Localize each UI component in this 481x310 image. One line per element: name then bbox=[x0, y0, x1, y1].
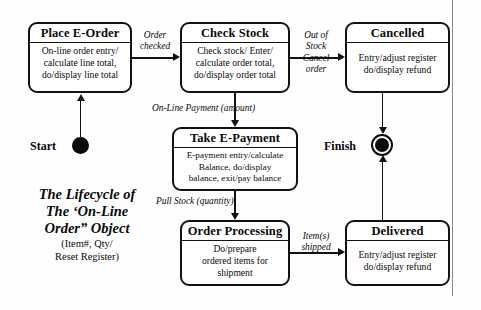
transition-label-line: Cancel bbox=[292, 53, 340, 64]
state-body-line: calculate line total, bbox=[33, 57, 127, 69]
state-body-delivered: Entry/adjust register do/display refund bbox=[347, 241, 448, 274]
state-title-cancelled: Cancelled bbox=[347, 24, 448, 42]
state-body-line: Check stock/ Enter/ bbox=[185, 45, 285, 57]
caption-subtitle: (Item#, Qty/ Reset Register) bbox=[8, 238, 166, 263]
transition-line-start bbox=[80, 100, 82, 140]
state-body-line: On-line order entry/ bbox=[33, 45, 127, 57]
state-title-delivered: Delivered bbox=[347, 222, 448, 240]
transition-label-line: Order bbox=[133, 30, 177, 41]
caption-title: The Lifecycle of The ‘On-Line Order” Obj… bbox=[8, 186, 166, 237]
caption-subtitle-line: (Item#, Qty/ bbox=[8, 238, 166, 250]
finish-marker-label: Finish bbox=[324, 139, 356, 154]
transition-label-line: order bbox=[292, 64, 340, 75]
state-body-line: E-payment entry/calculate bbox=[177, 150, 293, 161]
state-body-order-processing: Do/prepare ordered items for shipment bbox=[182, 241, 288, 280]
page-frame-rule bbox=[452, 0, 453, 296]
caption-subtitle-line: Reset Register) bbox=[8, 251, 166, 263]
arrow-head-order-checked bbox=[173, 53, 180, 61]
caption-title-line: Order” Object bbox=[8, 220, 166, 237]
state-body-take-e-payment: E-payment entry/calculate Balance, do/di… bbox=[174, 148, 296, 186]
state-take-e-payment[interactable]: Take E-Payment E-payment entry/calculate… bbox=[172, 127, 298, 191]
state-title-take-e-payment: Take E-Payment bbox=[174, 129, 296, 147]
transition-label-items-shipped: Item(s) shipped bbox=[292, 231, 340, 254]
transition-label-line: Out of bbox=[292, 30, 340, 41]
transition-line-order-checked bbox=[132, 57, 176, 59]
arrow-head-pull-stock bbox=[231, 213, 239, 220]
transition-line-cancelled-to-finish bbox=[382, 93, 384, 128]
transition-label-line: Stock bbox=[292, 41, 340, 52]
arrow-head-cancelled-to-finish bbox=[379, 127, 387, 134]
state-body-line: Entry/adjust register bbox=[350, 52, 445, 64]
state-delivered[interactable]: Delivered Entry/adjust register do/displ… bbox=[345, 220, 450, 286]
arrow-head-on-line-payment bbox=[231, 120, 239, 127]
state-body-place-e-order: On-line order entry/ calculate line tota… bbox=[30, 43, 130, 82]
state-title-check-stock: Check Stock bbox=[182, 24, 288, 42]
transition-label-order-checked: Order checked bbox=[133, 30, 177, 53]
transition-line-delivered-to-finish bbox=[382, 160, 384, 220]
finish-state-core bbox=[375, 138, 389, 152]
diagram-caption: The Lifecycle of The ‘On-Line Order” Obj… bbox=[8, 186, 166, 263]
state-diagram-canvas: Place E-Order On-line order entry/ calcu… bbox=[0, 0, 481, 310]
start-marker-label: Start bbox=[30, 139, 56, 154]
transition-label-line: checked bbox=[133, 41, 177, 52]
state-body-line: shipment bbox=[185, 267, 285, 279]
state-order-processing[interactable]: Order Processing Do/prepare ordered item… bbox=[180, 220, 290, 286]
transition-label-line: Pull Stock (quantity) bbox=[156, 196, 234, 207]
state-body-line: do/display refund bbox=[350, 64, 445, 76]
state-body-check-stock: Check stock/ Enter/ calculate order tota… bbox=[182, 43, 288, 82]
state-cancelled[interactable]: Cancelled Entry/adjust register do/displ… bbox=[345, 22, 450, 93]
state-body-cancelled: Entry/adjust register do/display refund bbox=[347, 43, 448, 77]
state-title-order-processing: Order Processing bbox=[182, 222, 288, 240]
state-body-line: ordered items for bbox=[185, 255, 285, 267]
transition-label-out-of-stock: Out of Stock Cancel order bbox=[292, 30, 340, 75]
state-body-line: do/display refund bbox=[350, 261, 445, 273]
state-title-place-e-order: Place E-Order bbox=[30, 24, 130, 42]
state-body-line: balance, exit/pay balance bbox=[177, 173, 293, 184]
transition-label-pull-stock: Pull Stock (quantity) bbox=[156, 196, 234, 207]
state-body-line: Entry/adjust register bbox=[350, 249, 445, 261]
arrow-head-delivered-to-finish bbox=[379, 155, 387, 162]
transition-label-line: Item(s) bbox=[292, 231, 340, 242]
state-body-line: do/display line total bbox=[33, 69, 127, 81]
state-place-e-order[interactable]: Place E-Order On-line order entry/ calcu… bbox=[28, 22, 132, 93]
state-body-line: calculate order total, bbox=[185, 57, 285, 69]
caption-title-line: The Lifecycle of bbox=[8, 186, 166, 203]
state-check-stock[interactable]: Check Stock Check stock/ Enter/ calculat… bbox=[180, 22, 290, 93]
transition-label-line: shipped bbox=[292, 242, 340, 253]
state-body-line: Do/prepare bbox=[185, 243, 285, 255]
state-body-line: do/display order total bbox=[185, 69, 285, 81]
caption-title-line: The ‘On-Line bbox=[8, 203, 166, 220]
transition-label-line: On-Line Payment (amount) bbox=[152, 103, 255, 114]
transition-label-on-line-payment: On-Line Payment (amount) bbox=[152, 103, 255, 114]
state-body-line: Balance, do/display bbox=[177, 162, 293, 173]
arrow-head-start bbox=[77, 94, 85, 101]
